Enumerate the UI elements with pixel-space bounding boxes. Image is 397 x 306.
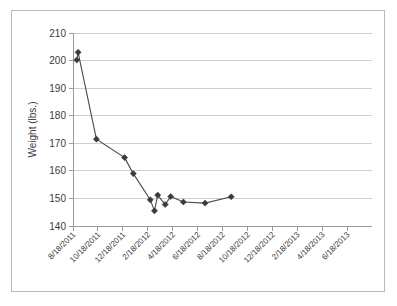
x-tick-label: 6/18/2013 [320,230,352,262]
y-tick-label: 160 [49,165,66,176]
gridlines [69,33,372,226]
x-axis-tick-marks [73,226,347,231]
axis-lines [73,33,372,226]
y-axis-tick-labels: 140150160170180190200210 [49,28,66,232]
weight-chart-figure: 140150160170180190200210 8/18/201110/18/… [0,0,397,306]
data-point-marker [180,199,186,205]
weight-line [77,52,231,211]
y-tick-label: 190 [49,83,66,94]
weight-series [74,49,235,214]
y-tick-label: 210 [49,28,66,39]
y-tick-label: 170 [49,138,66,149]
data-point-marker [202,200,208,206]
chart-canvas: 140150160170180190200210 8/18/201110/18/… [0,0,397,306]
data-point-marker [228,194,234,200]
data-point-marker [130,171,136,177]
y-tick-label: 200 [49,55,66,66]
data-point-marker [75,49,81,55]
data-point-marker [93,136,99,142]
y-axis-title: Weight (lbs.) [27,102,38,158]
data-point-marker [147,197,153,203]
weight-markers [74,49,235,214]
x-axis-tick-labels: 8/18/201110/18/201112/18/20112/18/20124/… [46,230,352,265]
y-tick-label: 140 [49,221,66,232]
y-tick-label: 180 [49,110,66,121]
data-point-marker [151,208,157,214]
y-tick-label: 150 [49,193,66,204]
data-point-marker [121,155,127,161]
